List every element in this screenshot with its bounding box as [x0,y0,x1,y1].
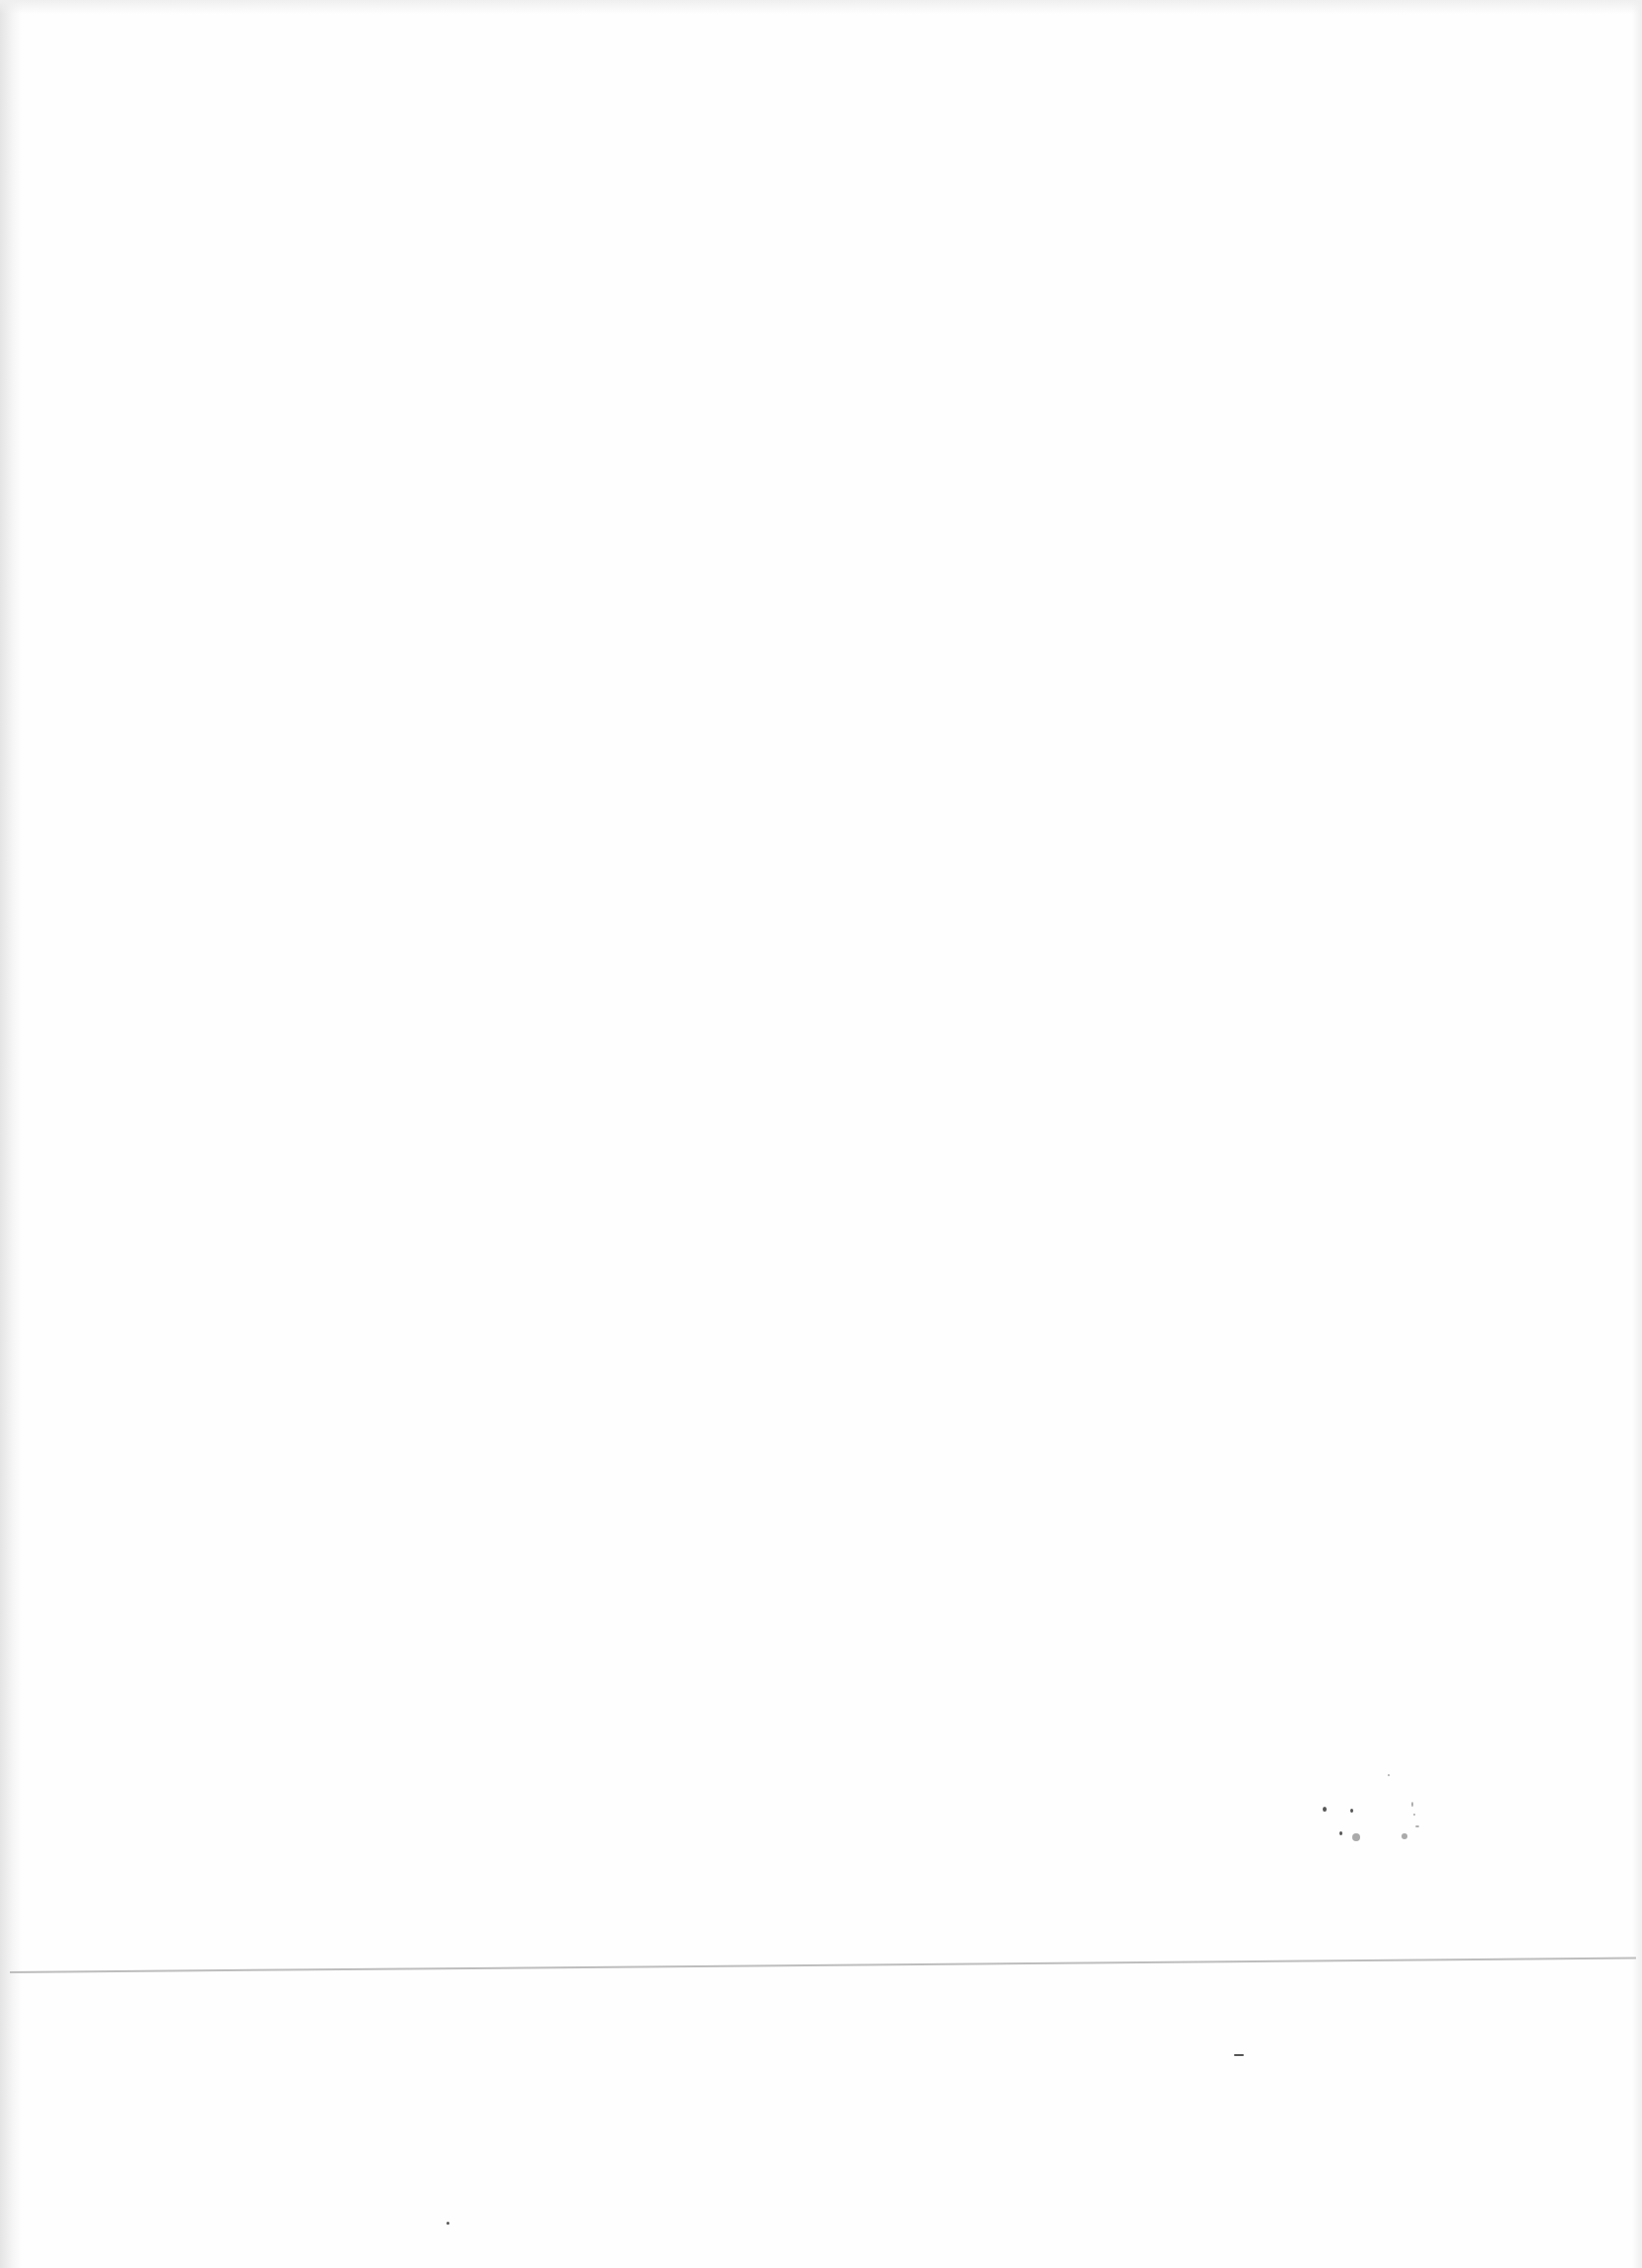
paper-fold-line [10,1958,1636,1973]
speck [1415,1825,1419,1827]
page-left-edge-shadow [0,0,22,2268]
speck [1234,2054,1244,2056]
speck [1352,1833,1360,1841]
page-top-edge-shadow [0,0,1642,14]
speck [1402,1833,1407,1839]
speck [1350,1809,1353,1813]
speck [446,2222,449,2225]
blank-scanned-page [0,0,1642,2268]
page-right-edge-shadow [1632,0,1642,2268]
speck [1411,1802,1413,1807]
speck [1388,1774,1390,1776]
speck [1413,1814,1415,1816]
speck [1323,1807,1327,1812]
speck [1339,1831,1342,1835]
